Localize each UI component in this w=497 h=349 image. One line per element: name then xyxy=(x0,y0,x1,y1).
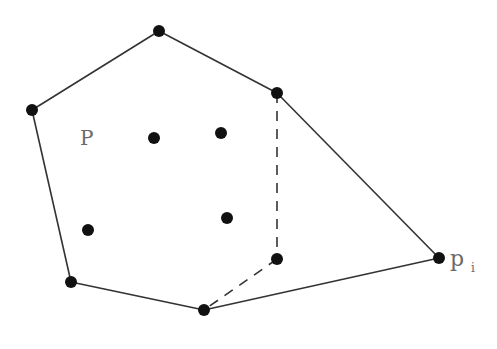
convex-hull-diagram: P p i xyxy=(0,0,497,349)
hull-edge xyxy=(159,31,277,93)
hull-point xyxy=(26,104,38,116)
hull-point xyxy=(433,252,445,264)
hull-edge xyxy=(71,282,204,310)
interior-point xyxy=(221,212,233,224)
hull-point xyxy=(65,276,77,288)
interior-point xyxy=(82,224,94,236)
new-point-subscript: i xyxy=(471,261,475,275)
hull-edge xyxy=(277,93,439,258)
hull-edge xyxy=(204,258,439,310)
hull-edge xyxy=(32,110,71,282)
hull-edges xyxy=(32,31,439,310)
interior-point xyxy=(271,253,283,265)
interior-point xyxy=(148,132,160,144)
hull-point xyxy=(153,25,165,37)
hull-point xyxy=(271,87,283,99)
hull-point xyxy=(198,304,210,316)
new-point-label: p xyxy=(450,246,464,271)
interior-point xyxy=(215,127,227,139)
hull-edge xyxy=(32,31,159,110)
point-set xyxy=(26,25,445,316)
set-label-P: P xyxy=(80,126,93,150)
removed-hull-edges xyxy=(204,93,277,310)
